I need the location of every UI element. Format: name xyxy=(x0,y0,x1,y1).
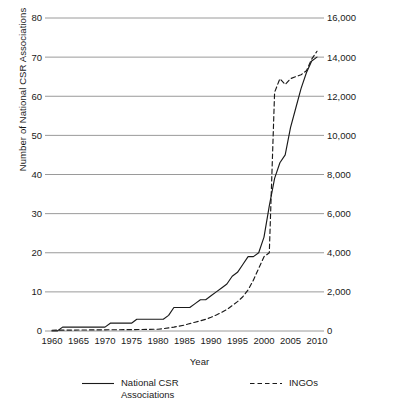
legend-swatch-solid xyxy=(81,378,115,389)
chart-legend: National CSR Associations INGOs xyxy=(0,377,399,400)
plot-area: 01020304050607080 02,0004,0006,0008,0001… xyxy=(0,0,399,360)
legend-label-ingos: INGOs xyxy=(289,377,318,389)
svg-text:80: 80 xyxy=(31,12,42,23)
y-axis-left-ticks: 01020304050607080 xyxy=(31,12,42,336)
svg-text:50: 50 xyxy=(31,130,42,141)
svg-text:14,000: 14,000 xyxy=(327,52,356,63)
svg-text:2005: 2005 xyxy=(280,335,301,346)
svg-text:2000: 2000 xyxy=(253,335,274,346)
legend-label-national-csr: National CSR Associations xyxy=(121,377,205,400)
svg-text:30: 30 xyxy=(31,208,42,219)
svg-text:6,000: 6,000 xyxy=(327,208,351,219)
svg-text:10,000: 10,000 xyxy=(327,130,356,141)
svg-text:10: 10 xyxy=(31,286,42,297)
legend-item-ingos: INGOs xyxy=(249,377,318,389)
svg-text:8,000: 8,000 xyxy=(327,169,351,180)
chart-figure: Number of National CSR Associations Numb… xyxy=(0,0,399,409)
svg-text:40: 40 xyxy=(31,169,42,180)
svg-text:1970: 1970 xyxy=(94,335,115,346)
x-axis-ticks: 1960196519701975198019851990199520002005… xyxy=(41,335,327,346)
svg-text:1985: 1985 xyxy=(174,335,195,346)
svg-text:16,000: 16,000 xyxy=(327,12,356,23)
svg-text:1995: 1995 xyxy=(227,335,248,346)
data-series xyxy=(52,51,317,331)
legend-swatch-dashed xyxy=(249,378,283,389)
svg-text:4,000: 4,000 xyxy=(327,247,351,258)
svg-text:1980: 1980 xyxy=(147,335,168,346)
svg-text:0: 0 xyxy=(327,325,332,336)
svg-text:20: 20 xyxy=(31,247,42,258)
svg-text:1975: 1975 xyxy=(121,335,142,346)
legend-item-national-csr: National CSR Associations xyxy=(81,377,205,400)
y-axis-right-ticks: 02,0004,0006,0008,00010,00012,00014,0001… xyxy=(327,12,356,336)
svg-text:1965: 1965 xyxy=(68,335,89,346)
gridlines xyxy=(45,18,324,331)
svg-text:2,000: 2,000 xyxy=(327,286,351,297)
svg-text:2010: 2010 xyxy=(306,335,327,346)
svg-text:60: 60 xyxy=(31,91,42,102)
svg-text:1960: 1960 xyxy=(41,335,62,346)
svg-text:12,000: 12,000 xyxy=(327,91,356,102)
y-axis-left-title: Number of National CSR Associations xyxy=(17,0,28,190)
svg-text:1990: 1990 xyxy=(200,335,221,346)
x-axis-title: Year xyxy=(0,356,399,367)
svg-text:70: 70 xyxy=(31,52,42,63)
